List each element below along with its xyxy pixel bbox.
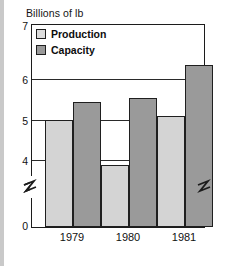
y-tick-6: 6 bbox=[4, 74, 28, 86]
y-tick-7: 7 bbox=[4, 20, 28, 32]
axis-break-zigzag-right-icon bbox=[197, 176, 213, 198]
legend-item-capacity: Capacity bbox=[36, 43, 106, 56]
chart-axis-title: Billions of lb bbox=[26, 7, 83, 19]
bar-capacity-1981 bbox=[185, 65, 213, 227]
y-tick-4: 4 bbox=[4, 155, 28, 167]
bar-capacity-1980 bbox=[129, 98, 157, 227]
bar-chart-figure: Billions of lb 7 6 5 4 0 Production Capa… bbox=[0, 0, 225, 266]
capacity-swatch-icon bbox=[36, 45, 46, 55]
bar-production-1980 bbox=[101, 165, 129, 227]
bar-production-1979 bbox=[45, 120, 73, 227]
legend-label-production: Production bbox=[51, 28, 106, 40]
production-swatch-icon bbox=[36, 29, 46, 39]
x-tick-1981: 1981 bbox=[172, 231, 196, 243]
y-tick-5: 5 bbox=[4, 115, 28, 127]
bar-production-1981 bbox=[157, 116, 185, 227]
bar-capacity-1979 bbox=[73, 102, 101, 227]
legend-item-production: Production bbox=[36, 27, 106, 40]
gridline-6 bbox=[32, 79, 204, 80]
chart-legend: Production Capacity bbox=[36, 27, 106, 56]
axis-break-zigzag-left-icon bbox=[23, 176, 39, 198]
legend-label-capacity: Capacity bbox=[51, 44, 95, 56]
y-tick-0: 0 bbox=[4, 220, 28, 232]
x-tick-1979: 1979 bbox=[60, 231, 84, 243]
x-tick-1980: 1980 bbox=[116, 231, 140, 243]
x-axis-labels: 1979 1980 1981 bbox=[31, 231, 205, 249]
